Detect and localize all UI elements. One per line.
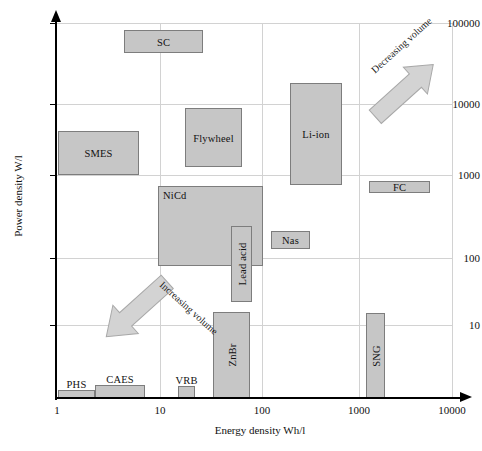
box-label-smes: SMES [84, 148, 112, 159]
gridline-y-1000 [57, 175, 453, 176]
y-tick-label-10: 10 [432, 320, 480, 331]
box-label-phs: PHS [67, 379, 87, 390]
box-label-flywheel: Flywheel [193, 132, 234, 143]
decreasing-volume-arrow: Decreasing volume [363, 45, 448, 135]
x-tick-label-1: 1 [27, 404, 87, 416]
x-tick-label-100: 100 [232, 404, 292, 416]
box-sc[interactable]: SC [124, 30, 203, 53]
y-tick-100000 [50, 23, 57, 24]
box-nas[interactable]: Nas [271, 231, 310, 249]
y-tick-10 [50, 325, 57, 326]
box-label-znbr: ZnBr [226, 344, 237, 367]
y-tick-10000 [50, 104, 57, 105]
y-axis-arrow-icon [51, 10, 61, 22]
box-label-liion: Li-ion [302, 129, 329, 140]
box-label-nicd: NiCd [163, 190, 187, 201]
box-leadacid[interactable]: Lead acid [231, 226, 252, 302]
gridline-y-100000 [57, 23, 453, 24]
box-label-fc: FC [393, 182, 406, 193]
box-znbr[interactable]: ZnBr [213, 312, 250, 398]
box-label-leadacid: Lead acid [236, 243, 247, 286]
box-sng[interactable]: SNG [366, 313, 385, 398]
box-label-sc: SC [157, 36, 170, 47]
y-tick-label-10000: 10000 [432, 99, 480, 110]
box-liion[interactable]: Li-ion [290, 83, 342, 185]
box-flywheel[interactable]: Flywheel [185, 108, 242, 167]
y-tick-label-100: 100 [432, 253, 480, 264]
y-tick-label-1000: 1000 [432, 170, 480, 181]
box-label-caes: CAES [106, 374, 134, 385]
box-smes[interactable]: SMES [58, 131, 139, 175]
x-tick-label-1000: 1000 [329, 404, 389, 416]
plot-area: SC SMES Flywheel Li-ion FC NiCd Lead aci… [57, 23, 453, 398]
box-label-nas: Nas [282, 235, 299, 246]
x-axis-line [56, 397, 462, 399]
box-label-vrb: VRB [175, 375, 197, 386]
box-fc[interactable]: FC [369, 181, 430, 193]
gridline-x-10000 [452, 23, 453, 398]
x-axis-title: Energy density Wh/l [160, 424, 360, 436]
gridline-x-1000 [359, 23, 360, 398]
x-axis-arrow-icon [460, 392, 472, 402]
increasing-volume-arrow: Increasing volume [90, 261, 182, 359]
x-tick-label-10: 10 [130, 404, 190, 416]
y-tick-100 [50, 258, 57, 259]
x-tick-label-10000: 10000 [422, 404, 482, 416]
y-axis-line [55, 20, 57, 400]
box-label-sng: SNG [370, 345, 381, 367]
y-axis-title: Power density W/l [12, 126, 24, 266]
y-tick-label-100000: 100000 [432, 18, 480, 29]
y-tick-1000 [50, 175, 57, 176]
